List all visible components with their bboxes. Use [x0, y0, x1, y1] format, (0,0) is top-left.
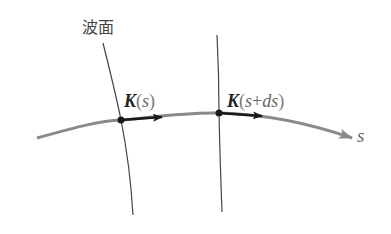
vector-symbol: K [227, 91, 239, 111]
wavefront-line-1 [103, 43, 133, 215]
vector-arrow-k-s [121, 117, 162, 120]
wavefront-label: 波面 [82, 20, 114, 36]
vector-label-k-s: K(s) [124, 92, 155, 110]
vector-symbol: K [124, 91, 136, 111]
wavefront-line-2 [217, 35, 222, 212]
vector-label-k-s-ds: K(s+ds) [227, 92, 284, 110]
vector-arrow-k-s-ds [219, 113, 262, 116]
curve-label-s: s [357, 126, 364, 145]
diagram-canvas [0, 0, 391, 234]
ray-curve [37, 113, 352, 138]
point-s [118, 117, 125, 124]
point-s-ds [216, 110, 223, 117]
